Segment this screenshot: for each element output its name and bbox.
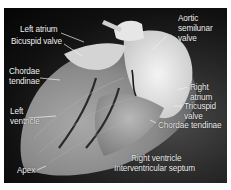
- label-right-atrium-1: Right: [190, 83, 209, 92]
- label-tricuspid-1: Tricuspid: [184, 102, 216, 111]
- label-tricuspid-2: valve: [184, 112, 203, 121]
- label-right-atrium-2: atrium: [190, 93, 212, 102]
- heart-photo: Left atrium Bicuspid valve Chordae tendi…: [4, 8, 227, 183]
- label-left-atrium: Left atrium: [20, 25, 58, 34]
- label-apex: Apex: [17, 166, 35, 175]
- label-chordae-left-2: tendinae: [9, 77, 40, 86]
- label-bicuspid-valve: Bicuspid valve: [11, 37, 62, 46]
- label-left-ventricle-2: ventricle: [10, 117, 40, 126]
- label-aortic-2: semilunar: [178, 24, 213, 33]
- label-chordae-left-1: Chordae: [9, 67, 40, 76]
- label-right-ventricle: Right ventricle: [131, 154, 181, 163]
- label-aortic-1: Aortic: [178, 14, 198, 23]
- label-aortic-3: valve: [178, 34, 197, 43]
- label-chordae-right: Chordae tendinae: [158, 121, 222, 130]
- label-septum: Interventricular septum: [114, 164, 195, 173]
- label-left-ventricle-1: Left: [10, 107, 23, 116]
